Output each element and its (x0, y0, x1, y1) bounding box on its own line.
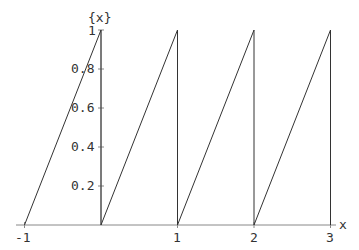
x-axis-label: x (339, 217, 347, 232)
x-tick-label: 1 (173, 230, 181, 245)
y-tick-label: 1 (88, 23, 96, 38)
x-tick-label: -1 (15, 230, 31, 245)
fractional-part-plot: {x} x -1 1 2 3 0.2 0.4 0.6 0.8 1 (0, 0, 359, 250)
y-tick-label: 0.4 (71, 139, 95, 154)
x-tick-label: 3 (326, 230, 334, 245)
x-tick-label: 2 (250, 230, 258, 245)
y-tick-label: 0.8 (71, 61, 94, 76)
sawtooth-series (25, 30, 331, 225)
y-tick-label: 0.6 (71, 100, 94, 115)
y-tick-label: 0.2 (71, 178, 94, 193)
